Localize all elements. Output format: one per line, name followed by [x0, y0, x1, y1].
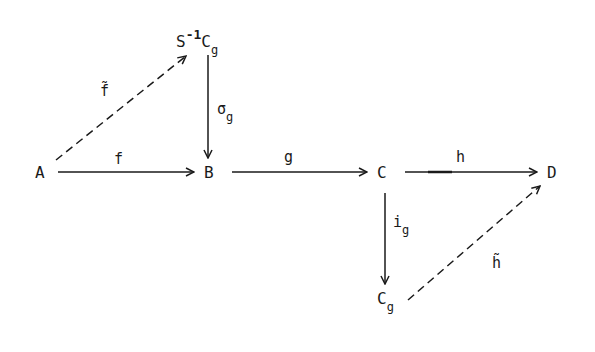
label-sigma-sub: g [226, 110, 233, 124]
label-g: g [284, 150, 293, 165]
label-i-g: ig [393, 215, 409, 230]
node-d: D [547, 165, 557, 181]
label-h: h [456, 150, 465, 165]
node-cg-sub: g [387, 300, 394, 314]
node-cg-main: C [377, 289, 387, 308]
node-s-base: S [176, 32, 186, 51]
node-s-sup: -1 [186, 27, 202, 42]
node-c: C [377, 165, 387, 181]
node-s-main: C [201, 32, 211, 51]
label-f: f [114, 152, 123, 167]
diagram-arrows [0, 0, 595, 352]
arrow-f-tilde [56, 56, 186, 160]
node-b: B [204, 165, 214, 181]
label-sigma-g: σg [217, 102, 233, 117]
node-s-inverse-c-g: S-1Cg [176, 34, 218, 50]
label-sigma-main: σ [217, 100, 226, 118]
label-h-tilde: h̃ [492, 256, 501, 271]
node-a: A [35, 165, 45, 181]
label-f-tilde: f̃ [100, 84, 109, 99]
label-i-main: i [393, 213, 402, 231]
arrow-h-tilde [408, 186, 540, 300]
node-s-sub: g [211, 43, 218, 57]
node-c-g: Cg [377, 291, 394, 307]
label-i-sub: g [402, 223, 409, 237]
